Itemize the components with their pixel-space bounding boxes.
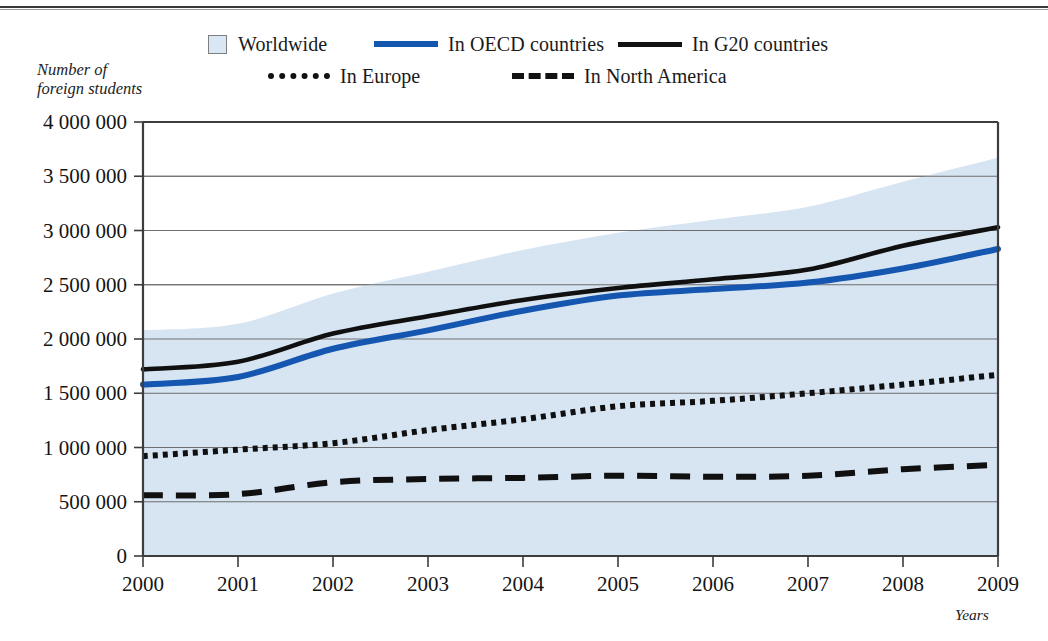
y-tick-labels-group: 0500 0001 000 0001 500 0002 000 0002 500… <box>43 110 127 568</box>
x-tick-label: 2007 <box>787 572 829 596</box>
x-tick-label: 2003 <box>407 572 449 596</box>
y-tick-label: 1 500 000 <box>43 381 127 405</box>
x-tick-label: 2000 <box>122 572 164 596</box>
x-tick-labels-group: 2000200120022003200420052006200720082009 <box>122 572 1019 596</box>
worldwide-band-path <box>143 158 998 556</box>
y-tick-label: 500 000 <box>59 490 127 514</box>
worldwide-band-group <box>143 158 998 556</box>
x-tick-label: 2002 <box>312 572 354 596</box>
y-tick-label: 3 500 000 <box>43 164 127 188</box>
y-tick-label: 2 500 000 <box>43 273 127 297</box>
y-tick-label: 1 000 000 <box>43 436 127 460</box>
x-tick-label: 2006 <box>692 572 734 596</box>
x-tick-label: 2005 <box>597 572 639 596</box>
y-tick-label: 4 000 000 <box>43 110 127 134</box>
y-tick-label: 2 000 000 <box>43 327 127 351</box>
chart-area: 0500 0001 000 0001 500 0002 000 0002 500… <box>0 0 1048 641</box>
x-tick-label: 2009 <box>977 572 1019 596</box>
x-tick-label: 2008 <box>882 572 924 596</box>
y-tick-label: 0 <box>117 544 128 568</box>
x-tick-label: 2004 <box>502 572 545 596</box>
y-tick-label: 3 000 000 <box>43 219 127 243</box>
x-tick-label: 2001 <box>217 572 259 596</box>
chart-svg: 0500 0001 000 0001 500 0002 000 0002 500… <box>0 0 1048 641</box>
